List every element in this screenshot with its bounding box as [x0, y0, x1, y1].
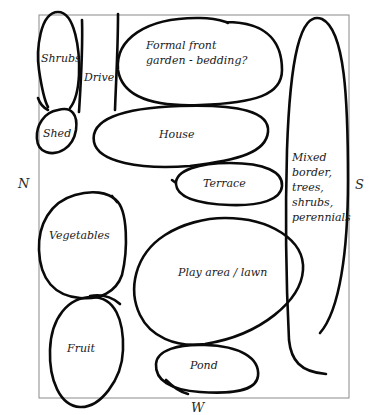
- vegetables-zone: [39, 192, 126, 298]
- fruit-label: Fruit: [66, 342, 95, 355]
- shed-label: Shed: [43, 127, 71, 140]
- compass-south-label: S: [355, 177, 364, 192]
- drive-label: Drive: [83, 71, 115, 84]
- compass-north-label: N: [17, 176, 30, 191]
- compass-west-label: W: [191, 400, 206, 415]
- garden-layout-diagram: N S W Shrubs Drive Formal front garden -…: [0, 0, 371, 415]
- mixed-border-label-line4: shrubs,: [292, 196, 333, 209]
- play-area-lawn-label: Play area / lawn: [177, 266, 267, 279]
- formal-front-garden-label-line1: Formal front: [145, 39, 217, 52]
- mixed-border-label-line5: perennials: [292, 211, 351, 224]
- pond-label: Pond: [189, 359, 218, 372]
- house-label: House: [158, 128, 195, 141]
- vegetables-label: Vegetables: [49, 229, 110, 242]
- play-area-lawn-zone: [134, 218, 303, 345]
- shrubs-label: Shrubs: [41, 52, 81, 65]
- mixed-border-label-line3: trees,: [292, 181, 324, 194]
- mixed-border-label-line1: Mixed: [291, 151, 327, 164]
- formal-front-garden-label-line2: garden - bedding?: [146, 54, 247, 67]
- mixed-border-label-line2: border,: [292, 166, 332, 179]
- terrace-label: Terrace: [203, 177, 246, 190]
